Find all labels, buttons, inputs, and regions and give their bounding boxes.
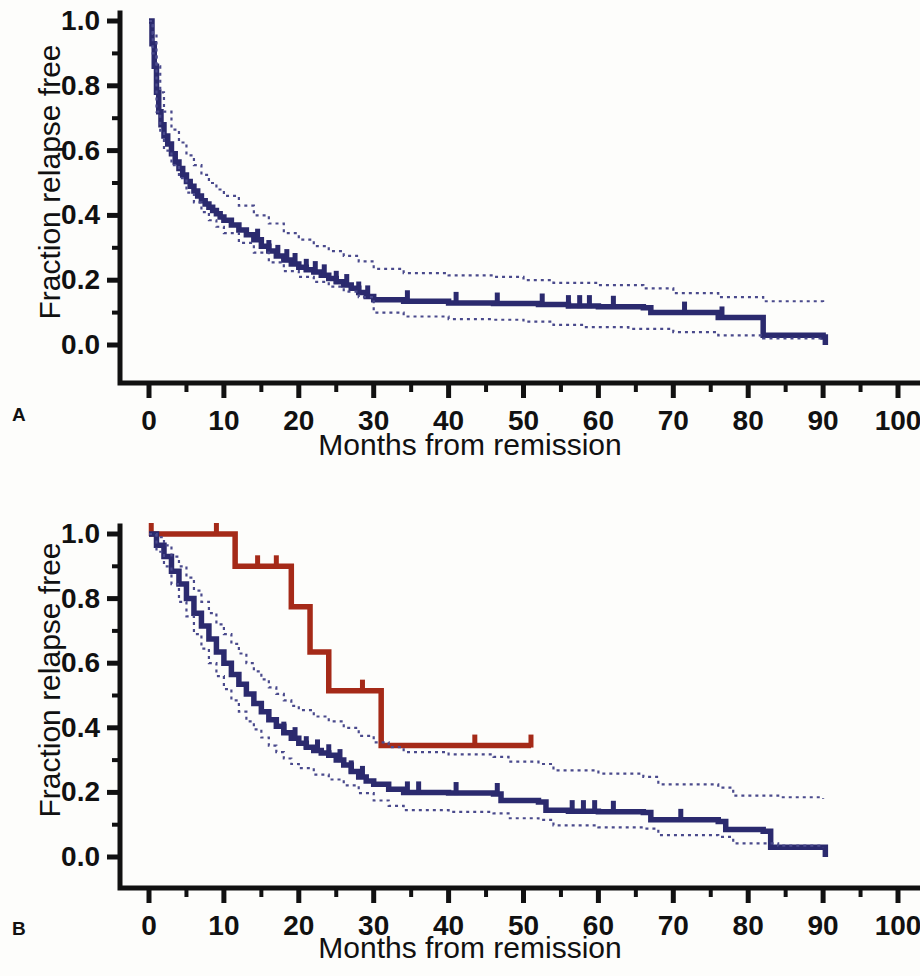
panel-a-axis-lines <box>120 13 920 383</box>
series-ci-upper <box>149 21 823 303</box>
x-tick-label: 60 <box>583 405 614 436</box>
y-tick-label: 0.0 <box>61 841 100 872</box>
x-tick-label: 0 <box>141 910 157 941</box>
x-tick-label: 90 <box>808 910 839 941</box>
y-tick-label: 0.2 <box>61 264 100 295</box>
x-tick-label: 50 <box>508 405 539 436</box>
panel-b-axis-lines <box>120 526 920 888</box>
y-tick-label: 0.6 <box>61 647 100 678</box>
x-tick-label: 40 <box>433 405 464 436</box>
y-tick-label: 0.6 <box>61 135 100 166</box>
series-ci-upper <box>149 534 823 799</box>
series-ci-lower <box>149 21 823 340</box>
y-tick-label: 1.0 <box>61 5 100 36</box>
x-tick-label: 40 <box>433 910 464 941</box>
x-tick-label: 100 <box>875 910 920 941</box>
y-tick-label: 0.8 <box>61 70 100 101</box>
panel-b: Fraction relapse free Months from remiss… <box>0 488 920 976</box>
x-tick-label: 80 <box>733 405 764 436</box>
series-ci-lower <box>149 534 823 847</box>
y-tick-label: 0.8 <box>61 583 100 614</box>
panel-a-plot: 0.00.20.40.60.81.00102030405060708090100 <box>0 0 920 488</box>
series-navy-curve <box>149 21 825 345</box>
panel-b-plot: 0.00.20.40.60.81.00102030405060708090100 <box>0 488 920 976</box>
x-tick-label: 60 <box>583 910 614 941</box>
y-tick-label: 0.4 <box>61 199 100 230</box>
x-tick-label: 70 <box>658 910 689 941</box>
x-tick-label: 80 <box>733 910 764 941</box>
y-tick-label: 0.2 <box>61 776 100 807</box>
x-tick-label: 20 <box>283 405 314 436</box>
y-tick-label: 0.4 <box>61 712 100 743</box>
x-tick-label: 10 <box>208 405 239 436</box>
series-navy-curve <box>149 534 825 857</box>
x-tick-label: 100 <box>875 405 920 436</box>
panel-a: Fraction relapse free Months from remiss… <box>0 0 920 488</box>
x-tick-label: 70 <box>658 405 689 436</box>
x-tick-label: 20 <box>283 910 314 941</box>
x-tick-label: 10 <box>208 910 239 941</box>
x-tick-label: 30 <box>358 910 389 941</box>
x-tick-label: 30 <box>358 405 389 436</box>
x-tick-label: 50 <box>508 910 539 941</box>
y-tick-label: 1.0 <box>61 518 100 549</box>
y-tick-label: 0.0 <box>61 329 100 360</box>
x-tick-label: 0 <box>141 405 157 436</box>
x-tick-label: 90 <box>808 405 839 436</box>
